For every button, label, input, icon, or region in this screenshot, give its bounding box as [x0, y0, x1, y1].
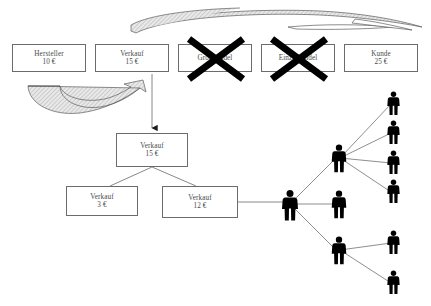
direct-box-right[interactable]: Verkauf 12 €: [162, 186, 238, 218]
chain-box-hersteller[interactable]: Hersteller 10 €: [12, 44, 86, 72]
chain-box-kunde-label: Kunde: [371, 50, 391, 58]
direct-box-top[interactable]: Verkauf 15 €: [116, 133, 188, 167]
direct-box-left-label: Verkauf: [90, 193, 113, 201]
chain-box-kunde-amount: 25 €: [375, 58, 388, 66]
direct-box-right-label: Verkauf: [188, 194, 211, 202]
network-person-l3-5[interactable]: [385, 229, 402, 255]
chain-box-kunde[interactable]: Kunde 25 €: [344, 44, 418, 72]
network-person-l3-6[interactable]: [385, 269, 402, 295]
chain-box-hersteller-label: Hersteller: [34, 50, 63, 58]
network-person-l3-3[interactable]: [385, 149, 402, 175]
network-person-l3-2[interactable]: [385, 119, 402, 145]
chain-box-einzelhandel[interactable]: Einzelhandel: [261, 44, 335, 72]
network-person-l3-1[interactable]: [385, 90, 402, 116]
direct-box-left[interactable]: Verkauf 3 €: [66, 186, 138, 216]
network-person-l2-2[interactable]: [329, 189, 349, 219]
network-person-root[interactable]: [279, 189, 301, 221]
chain-box-grosshandel-label: Großhandel: [198, 54, 233, 62]
chain-box-hersteller-amount: 10 €: [43, 58, 56, 66]
diagram-canvas: Hersteller 10 € Verkauf 15 € Großhandel …: [0, 0, 431, 306]
long-top-curve-arrow: [131, 8, 422, 33]
chain-box-verkauf[interactable]: Verkauf 15 €: [95, 44, 169, 72]
chain-box-verkauf-label: Verkauf: [120, 50, 143, 58]
chain-box-verkauf-amount: 15 €: [126, 58, 139, 66]
chain-box-grosshandel[interactable]: Großhandel: [178, 44, 252, 72]
network-person-l3-4[interactable]: [385, 178, 402, 204]
chain-box-einzelhandel-label: Einzelhandel: [279, 54, 318, 62]
branch-lines: [110, 167, 196, 186]
short-curve-arrow: [28, 80, 146, 113]
direct-box-top-label: Verkauf: [140, 142, 163, 150]
direct-box-right-amount: 12 €: [194, 202, 207, 210]
direct-box-top-amount: 15 €: [146, 150, 159, 158]
network-person-l2-3[interactable]: [329, 235, 349, 265]
network-person-l2-1[interactable]: [329, 143, 349, 173]
direct-box-left-amount: 3 €: [97, 201, 106, 209]
